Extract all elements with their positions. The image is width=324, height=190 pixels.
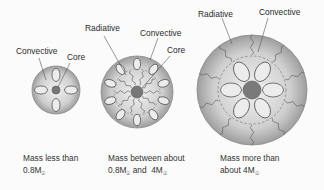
- pointer-convective: [150, 38, 158, 60]
- caption-high-mass: Mass more than about 4M☉: [220, 153, 279, 179]
- caption-mass: about 4M: [220, 165, 255, 175]
- caption-mass-a: 0.8M: [108, 165, 126, 175]
- core: [131, 86, 143, 98]
- convective-cell: [263, 83, 284, 97]
- label-convective: Convective: [259, 7, 301, 17]
- label-core: Core: [67, 52, 85, 62]
- solar-mass-symbol: ☉: [41, 170, 45, 176]
- caption-line1: Mass more than: [220, 153, 279, 165]
- caption-line2: 0.8M☉ and 4M☉: [108, 165, 185, 180]
- caption-mass: 0.8M: [23, 165, 41, 175]
- convective-cell: [133, 58, 140, 70]
- convective-cell: [133, 114, 140, 126]
- label-convective: Convective: [16, 46, 58, 56]
- star-mid-mass: Radiative Convective Core: [85, 23, 185, 128]
- convective-cell: [52, 69, 60, 82]
- caption-low-mass: Mass less than 0.8M☉: [23, 153, 78, 179]
- solar-mass-symbol: ☉: [163, 170, 167, 176]
- caption-line2: about 4M☉: [220, 165, 279, 180]
- pointer-radiative: [222, 18, 232, 44]
- caption-mid-mass: Mass between about 0.8M☉ and 4M☉: [108, 153, 185, 179]
- convective-cell: [35, 86, 48, 94]
- caption-line2: 0.8M☉: [23, 165, 78, 180]
- convective-cell: [52, 99, 60, 112]
- solar-mass-symbol: ☉: [255, 170, 259, 176]
- label-radiative: Radiative: [198, 9, 233, 19]
- label-convective: Convective: [140, 28, 182, 38]
- caption-mass-b: and 4M: [130, 165, 162, 175]
- core: [52, 86, 60, 94]
- caption-line1: Mass between about: [108, 153, 185, 165]
- star-low-mass: Convective Core: [16, 46, 85, 114]
- core: [243, 81, 261, 99]
- convective-cell: [221, 83, 242, 97]
- label-core: Core: [167, 45, 185, 55]
- convective-cell: [65, 86, 78, 94]
- star-high-mass: Radiative Convective: [197, 7, 307, 145]
- caption-line1: Mass less than: [23, 153, 78, 165]
- label-radiative: Radiative: [85, 23, 120, 33]
